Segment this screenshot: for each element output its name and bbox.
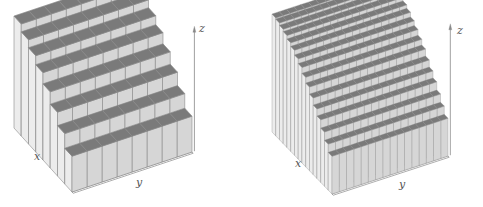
right-histogram-chart	[243, 0, 483, 207]
left-histogram-panel: x y z	[0, 0, 241, 207]
x-axis-label: x	[295, 157, 301, 170]
x-axis-label: x	[34, 150, 40, 163]
right-histogram-panel: x y z	[243, 0, 483, 207]
y-axis-label: y	[136, 176, 142, 189]
z-axis-label: z	[199, 22, 205, 35]
y-axis-label: y	[399, 178, 405, 191]
z-axis-label: z	[457, 24, 463, 37]
